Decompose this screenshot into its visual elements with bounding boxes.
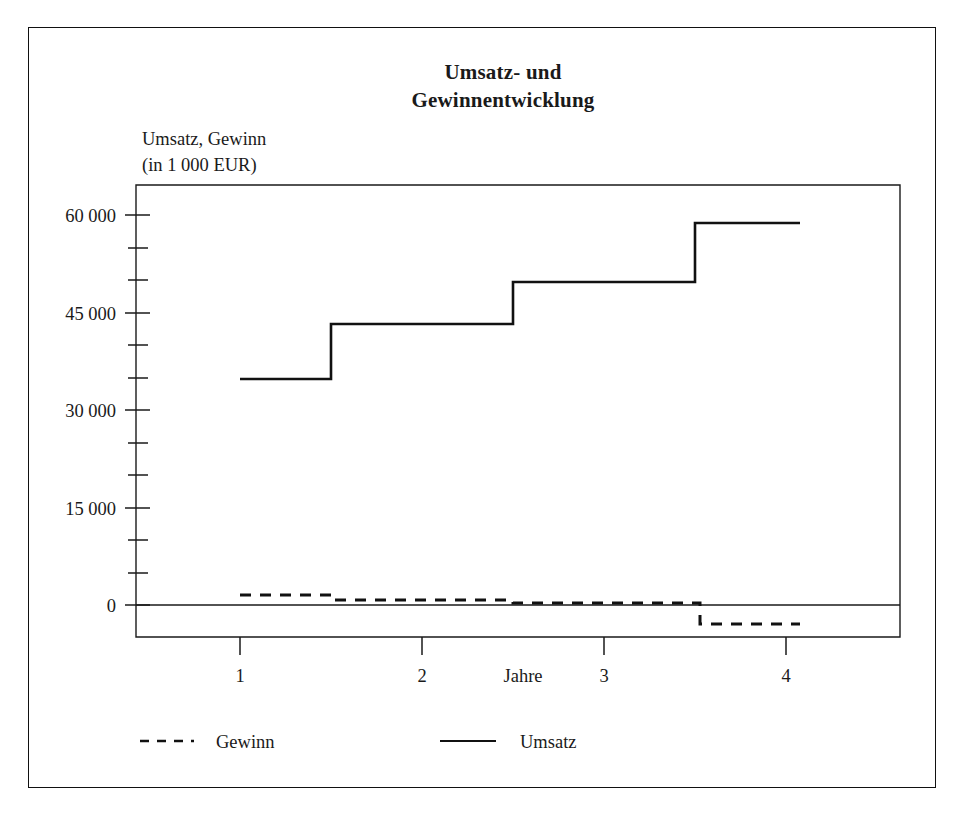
y-tick-label-0: 0 [107, 596, 116, 616]
y-tick-label-60000: 60 000 [65, 206, 116, 226]
plot-frame [136, 185, 900, 637]
y-tick-label-45000: 45 000 [65, 304, 116, 324]
figure-page: Umsatz- und Gewinnentwicklung Umsatz, Ge… [0, 0, 967, 820]
x-tick-label-2: 2 [417, 666, 426, 686]
y-tick-label-30000: 30 000 [65, 401, 116, 421]
y-axis-ticks [125, 215, 150, 605]
x-axis-title: Jahre [503, 666, 542, 686]
x-tick-label-1: 1 [235, 666, 244, 686]
y-axis-tick-labels: 0 15 000 30 000 45 000 60 000 [65, 206, 116, 616]
y-tick-label-15000: 15 000 [65, 499, 116, 519]
series-umsatz [240, 223, 800, 379]
legend-label-umsatz: Umsatz [520, 732, 577, 752]
x-axis-ticks [240, 637, 786, 655]
x-tick-label-3: 3 [599, 666, 608, 686]
legend-label-gewinn: Gewinn [216, 732, 275, 752]
x-tick-label-4: 4 [781, 666, 790, 686]
legend-item-gewinn[interactable]: Gewinn [140, 732, 275, 752]
series-gewinn [240, 595, 800, 624]
plot-canvas: 0 15 000 30 000 45 000 60 000 1 2 3 4 Ja… [0, 0, 967, 820]
legend: Gewinn Umsatz [140, 732, 577, 752]
legend-item-umsatz[interactable]: Umsatz [440, 732, 577, 752]
chart-figure: Umsatz- und Gewinnentwicklung Umsatz, Ge… [0, 0, 967, 820]
